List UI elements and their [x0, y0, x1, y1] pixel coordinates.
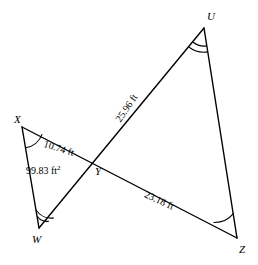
geometry-figure: X W Y U Z 10.74 ft 99.83 ft2 25.96 ft 23… — [0, 0, 258, 265]
angle-mark-u-outer — [189, 47, 208, 52]
diagram-canvas — [0, 0, 258, 265]
vertex-label-x: X — [14, 114, 21, 125]
vertex-label-u: U — [207, 11, 215, 22]
segment-uz — [204, 28, 237, 238]
area-label-value: 99.83 ft — [26, 165, 57, 176]
segment-wu — [39, 28, 204, 228]
angle-mark-u-inner — [193, 42, 207, 46]
angle-mark-z — [214, 213, 234, 222]
area-label-xyw: 99.83 ft2 — [26, 166, 61, 176]
vertex-label-w: W — [32, 234, 41, 245]
vertex-label-y: Y — [95, 166, 101, 177]
vertex-label-z: Z — [239, 244, 245, 255]
area-label-exponent: 2 — [57, 164, 61, 172]
